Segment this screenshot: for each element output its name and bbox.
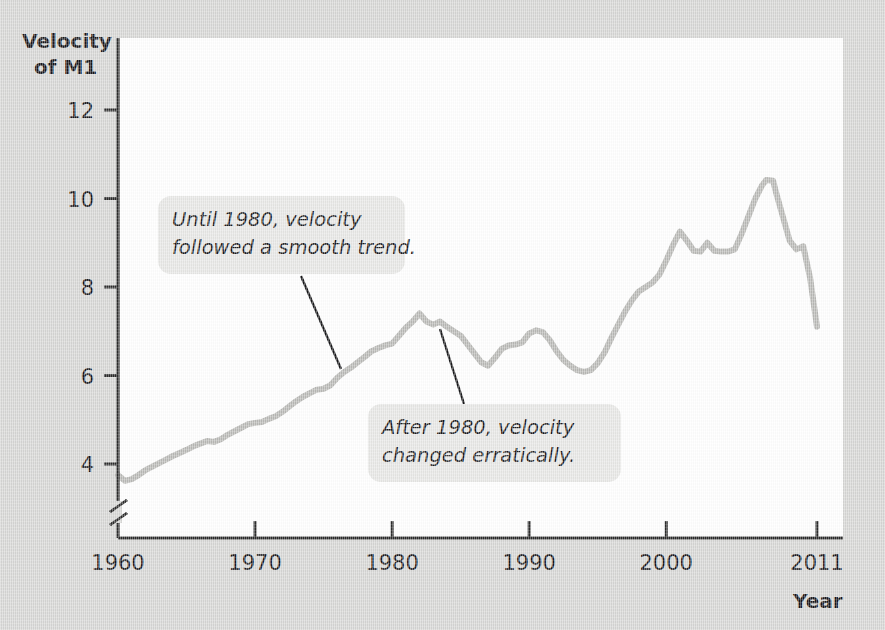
- y-axis-title-line1: Velocity: [22, 29, 112, 53]
- x-tick-label-2000: 2000: [640, 551, 693, 575]
- figure-container: 4681012 196019701980199020002011 Velocit…: [0, 0, 885, 630]
- x-tick-label-1970: 1970: [228, 551, 281, 575]
- annotation-erratic: After 1980, velocity changed erratically…: [368, 404, 621, 482]
- annotation-2-line1: After 1980, velocity: [380, 416, 575, 439]
- y-tick-label-4: 4: [81, 453, 94, 477]
- annotation-1-line2: followed a smooth trend.: [172, 236, 416, 259]
- y-axis-ticks: 4681012: [67, 99, 118, 477]
- annotation-1-line1: Until 1980, velocity: [172, 208, 362, 231]
- x-tick-label-2011: 2011: [790, 551, 843, 575]
- annotation-smooth-trend: Until 1980, velocity followed a smooth t…: [158, 196, 416, 274]
- y-axis-title-line2: of M1: [34, 55, 97, 79]
- y-tick-label-8: 8: [81, 276, 94, 300]
- y-tick-label-12: 12: [67, 99, 94, 123]
- y-tick-label-6: 6: [81, 365, 94, 389]
- velocity-of-m1-chart: 4681012 196019701980199020002011 Velocit…: [0, 0, 885, 630]
- x-tick-label-1990: 1990: [502, 551, 555, 575]
- x-tick-label-1980: 1980: [365, 551, 418, 575]
- x-axis-title: Year: [792, 589, 843, 613]
- x-tick-label-1960: 1960: [91, 551, 144, 575]
- y-tick-label-10: 10: [67, 188, 94, 212]
- annotation-2-line2: changed erratically.: [382, 444, 575, 467]
